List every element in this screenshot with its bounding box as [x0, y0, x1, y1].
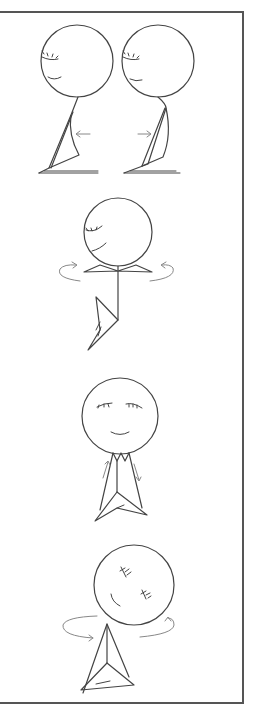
figure-back-bend-left	[39, 25, 113, 173]
rotate-left-icon	[63, 616, 97, 641]
figure-torso-rotate	[81, 545, 174, 693]
exercise-illustration	[0, 0, 254, 727]
figure-hip-twist	[84, 198, 152, 350]
figure-arm-slide	[82, 378, 158, 521]
rotate-right-icon	[140, 617, 174, 637]
rotate-left-icon	[59, 262, 80, 281]
arrow-left-icon	[76, 131, 90, 137]
figure-back-bend-right	[122, 25, 194, 173]
arrow-right-icon	[138, 131, 151, 137]
rotate-right-icon	[150, 262, 173, 281]
